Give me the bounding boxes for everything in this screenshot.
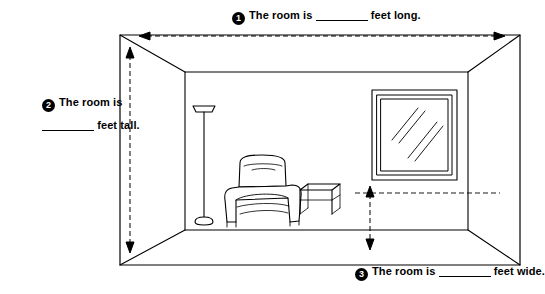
room-width-label: 3The room is feet wide. (355, 264, 545, 281)
width-text-before: The room is (372, 265, 435, 277)
length-text-before: The room is (249, 9, 312, 21)
width-blank[interactable] (439, 265, 491, 277)
width-text-after: feet wide. (494, 265, 545, 277)
callout-number-1: 1 (232, 12, 245, 25)
height-blank[interactable] (42, 119, 94, 131)
window (372, 90, 457, 180)
height-text-after: feet tall. (97, 119, 140, 131)
height-text-before: The room is (59, 96, 122, 108)
callout-number-3: 3 (355, 268, 368, 281)
length-text-after: feet long. (371, 9, 421, 21)
room-height-label: 2The room is feet tall. (42, 95, 140, 133)
room-length-label: 1The room is feet long. (232, 8, 421, 25)
length-blank[interactable] (316, 9, 368, 21)
callout-number-2: 2 (42, 99, 55, 112)
